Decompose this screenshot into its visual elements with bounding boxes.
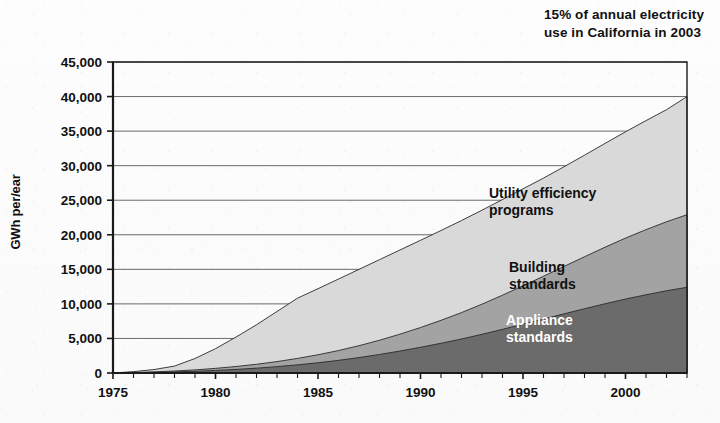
y-tick-label: 40,000	[61, 90, 102, 105]
x-tick-label: 1975	[98, 385, 129, 400]
chart-plot-area: 45,00040,00035,00030,00025,00020,00015,0…	[0, 0, 720, 423]
y-tick-label: 30,000	[61, 159, 102, 174]
x-axis-tick-labels-group: 197519801985199019952000	[98, 385, 641, 400]
area-chart-svg: 45,00040,00035,00030,00025,00020,00015,0…	[0, 0, 720, 423]
x-tick-label: 1995	[508, 385, 539, 400]
y-tick-label: 45,000	[61, 55, 102, 70]
y-tick-label: 25,000	[61, 193, 102, 208]
y-tick-label: 5,000	[68, 331, 102, 346]
y-tick-label: 20,000	[61, 228, 102, 243]
x-tick-label: 1980	[200, 385, 230, 400]
x-tick-label: 1985	[303, 385, 334, 400]
y-tick-label: 15,000	[61, 262, 102, 277]
series-label-appliance-standards: Appliancestandards	[506, 312, 573, 345]
y-tick-label: 0	[94, 366, 102, 381]
x-tick-label: 2000	[610, 385, 640, 400]
y-tick-label: 10,000	[61, 297, 102, 312]
y-axis-tick-labels-group: 45,00040,00035,00030,00025,00020,00015,0…	[61, 55, 102, 381]
y-tick-label: 35,000	[61, 124, 102, 139]
x-tick-label: 1990	[405, 385, 435, 400]
